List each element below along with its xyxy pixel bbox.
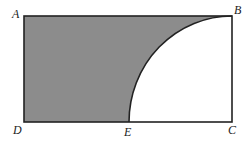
- shaded-region: [24, 16, 232, 122]
- label-b: B: [234, 3, 242, 17]
- geometry-diagram: A B C D E: [0, 0, 247, 142]
- label-d: D: [12, 123, 22, 137]
- label-a: A: [11, 7, 20, 21]
- label-e: E: [123, 125, 132, 139]
- label-c: C: [228, 123, 237, 137]
